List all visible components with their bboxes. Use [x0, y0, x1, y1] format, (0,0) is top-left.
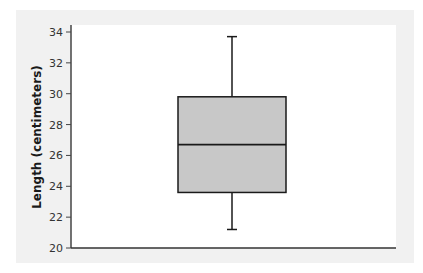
y-axis-label: Length (centimeters)	[30, 65, 44, 209]
y-tick-label: 34	[49, 26, 63, 39]
y-tick-label: 26	[49, 149, 63, 162]
y-ticks: 2022242628303234	[49, 26, 71, 255]
y-tick-label: 28	[49, 119, 63, 132]
box-element	[178, 37, 286, 230]
box-plot: 2022242628303234	[0, 0, 423, 273]
y-tick-label: 30	[49, 88, 63, 101]
y-tick-label: 22	[49, 211, 63, 224]
y-tick-label: 32	[49, 57, 63, 70]
y-tick-label: 20	[49, 242, 63, 255]
y-tick-label: 24	[49, 180, 63, 193]
